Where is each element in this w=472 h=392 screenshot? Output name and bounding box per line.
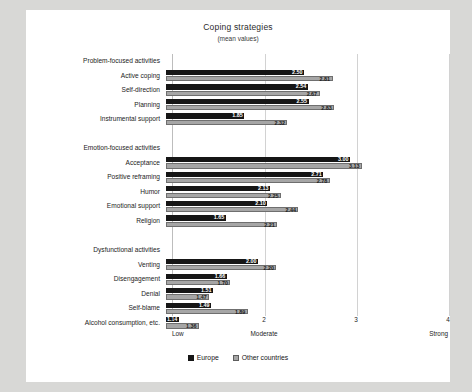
legend-swatch-other-countries: [233, 355, 239, 361]
bar-other: 2.32: [166, 120, 287, 125]
bar-value-label: 2.21: [264, 223, 275, 228]
row-label: Alcohol consumption, etc.: [26, 320, 166, 327]
bar-row: Venting2.002.20: [26, 258, 450, 273]
legend-swatch-europe: [188, 355, 194, 361]
bar-other: 3.13: [166, 163, 362, 168]
bar-other: 2.44: [166, 207, 298, 212]
chart-legend: Europe Other countries: [26, 354, 450, 361]
legend-item-other-countries: Other countries: [233, 354, 288, 361]
chart-card: Coping strategies (mean values) Problem-…: [26, 10, 450, 382]
bar-value-label: 1.49: [199, 303, 210, 308]
row-label: Religion: [26, 218, 166, 225]
row-label: Positive reframing: [26, 174, 166, 181]
bar-europe: 1.49: [166, 303, 211, 308]
row-bars: 2.552.83: [166, 98, 442, 113]
bar-europe: 2.54: [166, 84, 308, 89]
bar-europe: 2.00: [166, 259, 258, 264]
bar-value-label: 2.00: [246, 259, 257, 264]
bar-value-label: 3.13: [349, 164, 360, 169]
bar-row: Planning2.552.83: [26, 98, 450, 113]
row-bars: 2.002.20: [166, 258, 442, 273]
row-bars: 3.003.13: [166, 156, 442, 171]
bar-row: Instrumental support1.852.32: [26, 112, 450, 127]
group-heading-bars: [166, 243, 442, 258]
row-bars: 1.652.21: [166, 214, 442, 229]
bar-value-label: 2.44: [285, 208, 296, 213]
bar-other: 2.67: [166, 91, 320, 96]
row-label: Self-blame: [26, 305, 166, 312]
group-heading-bars: [166, 141, 442, 156]
bar-row: Emotional support2.102.44: [26, 199, 450, 214]
legend-label-europe: Europe: [197, 354, 219, 361]
bar-value-label: 2.78: [317, 179, 328, 184]
row-bars: 2.712.78: [166, 170, 442, 185]
bar-value-label: 1.51: [201, 288, 212, 293]
bar-other: 2.20: [166, 265, 276, 270]
row-label: Venting: [26, 262, 166, 269]
row-bars: 2.502.81: [166, 69, 442, 84]
bar-europe: 2.55: [166, 99, 309, 104]
chart-subtitle: (mean values): [26, 35, 450, 42]
row-label: Planning: [26, 102, 166, 109]
bar-other: 1.47: [166, 294, 209, 299]
row-label: Humor: [26, 189, 166, 196]
legend-label-other-countries: Other countries: [242, 354, 288, 361]
bar-value-label: 2.13: [258, 186, 269, 191]
bar-row: Self-blame1.491.89: [26, 301, 450, 316]
row-bars: 1.511.47: [166, 287, 442, 302]
bar-row: Religion1.652.21: [26, 214, 450, 229]
bar-value-label: 2.50: [292, 70, 303, 75]
bar-value-label: 2.55: [297, 99, 308, 104]
bar-value-label: 1.89: [235, 310, 246, 315]
x-tick-3: 3: [354, 316, 358, 323]
bar-europe: 2.13: [166, 186, 270, 191]
bar-value-label: 2.81: [320, 77, 331, 82]
bar-value-label: 1.66: [215, 274, 226, 279]
x-axis: 1234LowModerateStrong: [172, 316, 448, 350]
group-spacer: [26, 127, 450, 142]
row-label: Disengagement: [26, 276, 166, 283]
group-heading-2: Dysfunctional activities: [26, 243, 450, 258]
group-spacer: [26, 229, 450, 244]
row-label: Instrumental support: [26, 116, 166, 123]
bar-row: Acceptance3.003.13: [26, 156, 450, 171]
bar-other: 2.21: [166, 222, 277, 227]
bar-value-label: 2.10: [255, 201, 266, 206]
bar-other: 2.78: [166, 178, 330, 183]
scale-anchor-moderate: Moderate: [251, 330, 278, 337]
bar-value-label: 2.83: [321, 106, 332, 111]
row-label: Denial: [26, 291, 166, 298]
bar-value-label: 3.00: [338, 157, 349, 162]
scale-anchor-strong: Strong: [429, 330, 448, 337]
bar-europe: 1.85: [166, 113, 244, 118]
x-tick-2: 2: [262, 316, 266, 323]
bar-other: 2.81: [166, 76, 333, 81]
row-bars: 1.491.89: [166, 301, 442, 316]
bar-europe: 2.71: [166, 172, 323, 177]
bar-row: Positive reframing2.712.78: [26, 170, 450, 185]
row-label: Emotion-focused activities: [26, 145, 166, 152]
bar-row: Denial1.511.47: [26, 287, 450, 302]
bar-row: Active coping2.502.81: [26, 69, 450, 84]
group-heading-0: Problem-focused activities: [26, 54, 450, 69]
bar-europe: 1.66: [166, 274, 227, 279]
row-label: Emotional support: [26, 203, 166, 210]
plot-wrapper: Problem-focused activitiesActive coping2…: [26, 54, 450, 316]
bar-europe: 1.51: [166, 288, 213, 293]
row-label: Acceptance: [26, 160, 166, 167]
row-label: Self-direction: [26, 87, 166, 94]
bar-europe: 2.50: [166, 70, 304, 75]
group-heading-bars: [166, 54, 442, 69]
bar-europe: 3.00: [166, 157, 350, 162]
row-bars: 1.852.32: [166, 112, 442, 127]
x-tick-1: 1: [170, 316, 174, 323]
scale-anchor-low: Low: [172, 330, 184, 337]
bar-value-label: 1.85: [232, 113, 243, 118]
bar-value-label: 1.70: [217, 281, 228, 286]
bar-other: 2.25: [166, 193, 281, 198]
bar-row: Disengagement1.661.70: [26, 272, 450, 287]
bar-other: 2.83: [166, 105, 334, 110]
group-heading-1: Emotion-focused activities: [26, 141, 450, 156]
bar-value-label: 2.32: [274, 121, 285, 126]
chart-title: Coping strategies: [26, 22, 450, 32]
